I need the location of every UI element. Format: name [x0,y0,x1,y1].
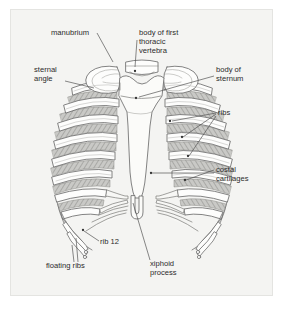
label-floating-ribs-line-0: floating ribs [46,261,85,270]
label-body-of-sternum-line-0: body of [216,65,242,74]
label-rib-12-line-0: rib 12 [100,237,119,246]
floating-ribs-left [63,222,88,259]
label-costal-cartilages: costalcartilages [216,165,249,183]
rib-cage-illustration [51,60,233,259]
leader-line-floating-ribs-0 [72,245,74,262]
leader-dot-ribs-2 [187,155,189,157]
label-sternal-angle-line-0: sternal [34,65,57,74]
leader-dot-costal-cartilages-1 [150,172,152,174]
label-xiphoid-process-line-0: xiphoid [150,259,174,268]
figure-root: manubriumbody of firstthoracicvertebrast… [0,0,284,312]
leader-dot-ribs-0 [169,120,171,122]
leader-line-manubrium-0 [97,33,113,62]
label-body-of-first-thoracic-vertebra-line-0: body of first [139,28,179,37]
label-manubrium-line-0: manubrium [51,28,89,37]
label-costal-cartilages-line-0: costal [216,165,236,174]
label-xiphoid-process: xiphoidprocess [150,259,177,277]
leader-dot-rib-12-0 [82,229,84,231]
label-body-of-first-thoracic-vertebra-line-2: vertebra [139,46,168,55]
label-manubrium: manubrium [51,28,89,37]
thoracic-cage-diagram: manubriumbody of firstthoracicvertebrast… [0,0,284,312]
label-sternal-angle-line-1: angle [34,74,53,83]
label-rib-12: rib 12 [100,237,119,246]
leader-line-rib-12-0 [84,231,99,241]
sternum [119,76,164,198]
floating-ribs-right [196,222,221,259]
leader-dot-body-of-sternum-0 [135,97,137,99]
label-sternal-angle: sternalangle [34,65,57,83]
leader-dot-ribs-1 [181,136,183,138]
label-body-of-first-thoracic-vertebra-line-1: thoracic [139,37,166,46]
first-thoracic-vertebra [126,60,158,76]
label-xiphoid-process-line-1: process [150,268,177,277]
label-floating-ribs: floating ribs [46,261,85,270]
label-costal-cartilages-line-1: cartilages [216,174,249,183]
leader-dot-costal-cartilages-0 [184,179,186,181]
label-body-of-sternum-line-1: sternum [216,74,243,83]
label-body-of-sternum: body ofsternum [216,65,243,83]
label-ribs-line-0: ribs [218,108,230,117]
leader-dot-body-of-first-thoracic-vertebra-0 [134,70,136,72]
label-body-of-first-thoracic-vertebra: body of firstthoracicvertebra [139,28,179,55]
label-ribs: ribs [218,108,230,117]
